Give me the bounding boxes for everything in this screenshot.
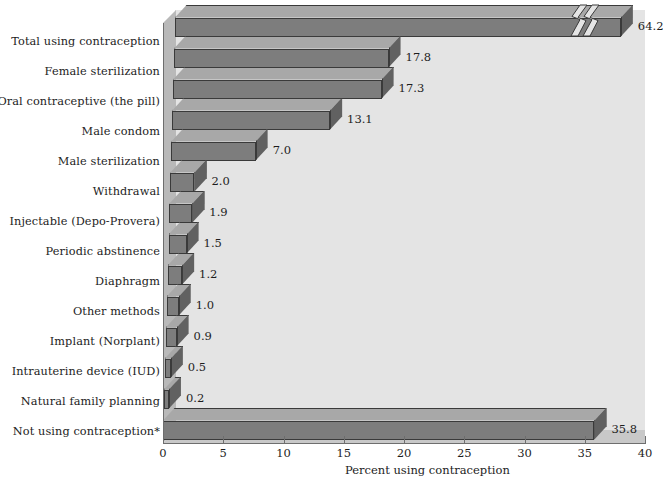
category-label: Not using contraception* bbox=[13, 425, 160, 438]
bar-front-face bbox=[174, 49, 388, 68]
bar-top-face bbox=[172, 98, 342, 112]
bar bbox=[165, 359, 171, 378]
bar-front-face bbox=[168, 266, 182, 285]
category-label: Periodic abstinence bbox=[46, 245, 160, 258]
category-label: Implant (Norplant) bbox=[50, 335, 160, 348]
x-axis-tick bbox=[525, 436, 526, 444]
bar-value-label: 7.0 bbox=[273, 143, 291, 157]
x-axis-tick-label: 30 bbox=[517, 446, 532, 460]
bar-value-label: 17.8 bbox=[406, 50, 432, 64]
bar-front-face bbox=[171, 142, 255, 161]
x-axis-tick bbox=[163, 436, 164, 444]
category-label: Injectable (Depo-Provera) bbox=[9, 215, 160, 228]
category-label: Male condom bbox=[82, 125, 160, 138]
bar bbox=[175, 18, 621, 37]
bar-value-label: 1.0 bbox=[196, 298, 214, 312]
bar-value-label: 13.1 bbox=[347, 112, 373, 126]
category-label: Female sterilization bbox=[45, 65, 160, 78]
x-axis-tick-label: 20 bbox=[397, 446, 412, 460]
bar-value-label: 2.0 bbox=[211, 174, 229, 188]
category-label: Male sterilization bbox=[58, 155, 160, 168]
bar-value-label: 35.8 bbox=[611, 422, 637, 436]
bar-front-face bbox=[175, 18, 621, 37]
category-label: Withdrawal bbox=[93, 185, 160, 198]
bar-front-face bbox=[167, 297, 179, 316]
bar bbox=[173, 80, 381, 99]
bar-front-face bbox=[170, 173, 194, 192]
bar bbox=[166, 328, 177, 347]
x-axis-tick-label: 10 bbox=[276, 446, 291, 460]
bar-value-label: 64.2 bbox=[638, 19, 663, 33]
x-axis-tick-label: 15 bbox=[336, 446, 351, 460]
bar-front-face bbox=[163, 421, 594, 440]
bar-top-face bbox=[174, 36, 400, 50]
bar bbox=[169, 235, 187, 254]
bar-value-label: 1.2 bbox=[199, 267, 217, 281]
x-axis-title: Percent using contraception bbox=[345, 463, 510, 477]
bar-value-label: 1.9 bbox=[209, 205, 227, 219]
category-label: Natural family planning bbox=[21, 395, 160, 408]
bar-value-label: 0.9 bbox=[194, 329, 212, 343]
bar-front-face bbox=[169, 204, 192, 223]
bar-front-face bbox=[166, 328, 177, 347]
x-axis-tick bbox=[585, 436, 586, 444]
bar bbox=[168, 266, 182, 285]
bar bbox=[174, 49, 388, 68]
bar-top-face bbox=[171, 129, 267, 143]
x-axis-tick-label: 5 bbox=[220, 446, 227, 460]
x-axis-tick bbox=[284, 436, 285, 444]
bar-front-face bbox=[173, 80, 381, 99]
bar bbox=[170, 173, 194, 192]
plot-left-wall bbox=[163, 10, 176, 443]
bar-value-label: 0.2 bbox=[186, 391, 204, 405]
x-axis-tick bbox=[223, 436, 224, 444]
bar bbox=[167, 297, 179, 316]
category-label: Intrauterine device (IUD) bbox=[12, 365, 160, 378]
bar-top-face bbox=[163, 408, 606, 422]
bar bbox=[169, 204, 192, 223]
bar bbox=[171, 142, 255, 161]
x-axis-tick bbox=[404, 436, 405, 444]
bar-top-face bbox=[173, 67, 393, 81]
category-label: Diaphragm bbox=[95, 275, 160, 288]
bar-front-face bbox=[165, 359, 171, 378]
x-axis-tick bbox=[344, 436, 345, 444]
bar-value-label: 17.3 bbox=[399, 81, 425, 95]
category-label: Oral contraceptive (the pill) bbox=[0, 95, 160, 108]
category-label: Other methods bbox=[73, 305, 160, 318]
bar-front-face bbox=[164, 390, 169, 409]
bar-top-face bbox=[175, 5, 633, 19]
x-axis-tick-label: 0 bbox=[159, 446, 166, 460]
category-label: Total using contraception bbox=[11, 35, 160, 48]
y-axis-line bbox=[163, 23, 164, 444]
bar-value-label: 0.5 bbox=[188, 360, 206, 374]
x-axis-tick-label: 40 bbox=[638, 446, 653, 460]
x-axis-tick-label: 35 bbox=[577, 446, 592, 460]
x-axis-tick-label: 25 bbox=[457, 446, 472, 460]
bar-front-face bbox=[169, 235, 187, 254]
x-axis-tick bbox=[464, 436, 465, 444]
bar bbox=[163, 421, 594, 440]
x-axis-tick bbox=[645, 436, 646, 444]
bar-front-face bbox=[172, 111, 330, 130]
bar-value-label: 1.5 bbox=[204, 236, 222, 250]
bar bbox=[172, 111, 330, 130]
bar bbox=[164, 390, 169, 409]
